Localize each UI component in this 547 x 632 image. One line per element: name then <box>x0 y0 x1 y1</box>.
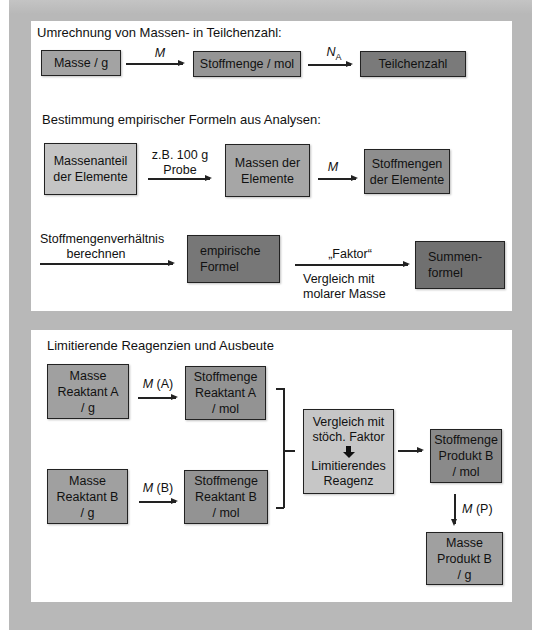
box-vergleich-limitierend: Vergleich mit stöch. Faktor Limitierende… <box>303 409 394 494</box>
section-title-conversion: Umrechnung von Massen- in Teilchenzahl: <box>37 25 282 40</box>
arrow-label-mp: M (P) <box>462 502 502 517</box>
box-stoffmenge-mol: Stoffmenge / mol <box>193 51 301 77</box>
arrow-ma <box>138 397 176 399</box>
box-massen-elemente: Massen der Elemente <box>225 144 310 197</box>
box-massenanteil: Massenanteil der Elemente <box>44 143 137 195</box>
arrow-label-vergleich: Vergleich mit molarer Masse <box>303 272 403 302</box>
compare-text-top: Vergleich mit stöch. Faktor <box>312 415 384 445</box>
label-mp-rest: (P) <box>472 502 492 516</box>
italic-n: N <box>326 45 335 59</box>
label-mb-rest: (B) <box>153 481 173 495</box>
box-stoffmenge-reaktant-a: Stoffmenge Reaktant A / mol <box>185 366 266 420</box>
arrow-m2 <box>318 178 356 180</box>
compare-text-bottom: Limitierendes Reagenz <box>311 459 385 489</box>
italic-mp: M <box>462 502 472 516</box>
box-empirische-formel: empirische Formel <box>187 235 280 283</box>
bracket-bottom-tick <box>276 507 284 509</box>
arrow-mb <box>139 501 176 503</box>
box-stoffmenge-reaktant-b: Stoffmenge Reaktant B / mol <box>184 470 268 524</box>
arrow-m <box>126 63 183 65</box>
lead-label-text: Stoffmengenverhältnis berechnen <box>40 232 152 262</box>
italic-m2: M <box>328 160 338 174</box>
arrow-mp <box>454 494 456 524</box>
arrow-ratio <box>40 263 173 265</box>
thick-down-arrow-icon <box>343 446 355 458</box>
box-teilchenzahl: Teilchenzahl <box>360 51 466 77</box>
italic-mb: M <box>143 481 153 495</box>
arrow-label-m: M <box>150 46 170 61</box>
section-subtitle-empirical: Bestimmung empirischer Formeln aus Analy… <box>42 112 321 127</box>
bracket-center-tick <box>283 450 295 452</box>
arrow-label-mb: M (B) <box>138 481 178 496</box>
subscript-a: A <box>336 52 342 62</box>
box-stoffmenge-produkt-b: Stoffmenge Produkt B / mol <box>430 429 502 483</box>
box-stoffmengen-elemente: Stoffmengen der Elemente <box>364 149 450 194</box>
label-stoffmengenverhaeltnis: Stoffmengenverhältnis berechnen <box>40 232 158 262</box>
italic-ma: M <box>143 377 153 391</box>
label-ma-rest: (A) <box>153 377 173 391</box>
arrow-label-probe: z.B. 100 g Probe <box>145 148 215 178</box>
arrow-probe <box>148 178 210 180</box>
arrow-faktor <box>295 264 408 266</box>
arrow-label-faktor: „Faktor“ <box>300 247 400 262</box>
bracket-vertical <box>283 388 285 508</box>
top-fade <box>9 0 532 14</box>
box-masse-reaktant-a: Masse Reaktant A / g <box>47 364 129 419</box>
box-masse-produkt-b: Masse Produkt B / g <box>426 532 503 585</box>
italic-m: M <box>155 46 165 60</box>
section-title-limiting: Limitierende Reagenzien und Ausbeute <box>47 338 274 353</box>
box-masse-g: Masse / g <box>41 50 121 76</box>
box-masse-reaktant-b: Masse Reaktant B / g <box>47 469 128 524</box>
arrow-label-na: NA <box>322 45 346 65</box>
arrow-label-ma: M (A) <box>138 377 178 392</box>
arrow-to-product <box>398 450 422 452</box>
arrow-label-m2: M <box>323 160 343 175</box>
box-summenformel: Summen- formel <box>415 241 505 289</box>
